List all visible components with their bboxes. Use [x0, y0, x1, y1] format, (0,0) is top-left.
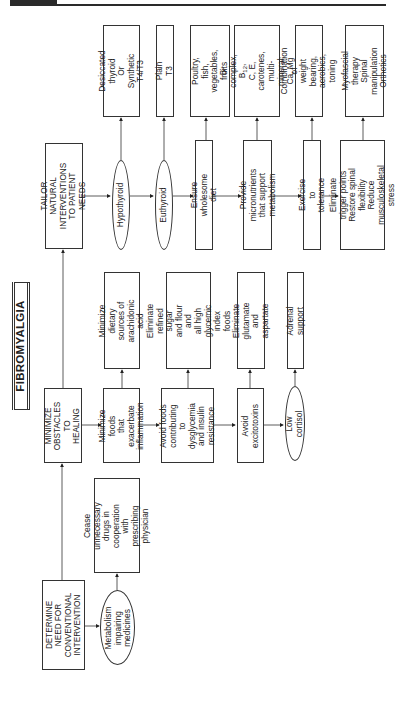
avoid-excitotoxins-box: Avoid excitotoxins	[237, 388, 264, 463]
determine-conventional-text: DETERMINE NEED FOR CONVENTIONAL INTERVEN…	[45, 593, 83, 658]
title-text: FIBROMYALGIA	[16, 300, 26, 391]
ensure-diet-text: Ensure wholesome diet	[190, 174, 219, 216]
euthyroid-text: Euthyroid	[159, 187, 169, 222]
metabolism-impairing-text: Metabolism impairing medicines	[103, 606, 132, 649]
metabolism-impairing-ellipse: Metabolism impairing medicines	[100, 590, 135, 665]
adrenal-support-box: Adrenal support	[287, 272, 304, 369]
myofascial-therapy-box: Myofascial therapy Spinal manipulation O…	[345, 25, 384, 117]
ensure-diet-box: Ensure wholesome diet	[195, 140, 213, 250]
provide-micronutrients-text: Provide micronutrients that support meta…	[238, 169, 276, 222]
determine-conventional-box: DETERMINE NEED FOR CONVENTIONAL INTERVEN…	[42, 580, 85, 670]
avoid-dysglycemia-foods-text: Avoid foods contributing to dysglycemia …	[159, 402, 217, 448]
plain-t3-box: Plain T3	[156, 25, 174, 117]
combination-exercise-box: Combination of weight bearing, aerobics,…	[295, 25, 323, 117]
eliminate-refined-sugar-text: Eliminate refined sugar and flour and al…	[145, 303, 231, 337]
minimize-arachidonic-box: Minimize dietary sources of arachidonic …	[104, 272, 140, 369]
exercise-box: Exercise to tolerance	[303, 140, 321, 250]
cease-drugs-box: Cease unnecessary drugs in cooperation w…	[94, 478, 140, 573]
combination-exercise-text: Combination of weight bearing, aerobics,…	[280, 47, 338, 94]
eliminate-trigger-points-box: Eliminate trigger points Restore spinal …	[340, 140, 385, 250]
fibromyalgia-title: FIBROMYALGIA	[12, 282, 30, 410]
desiccated-thyroid-text: Desiccated thyroid Or Synthetic T4/T3	[98, 50, 146, 91]
avoid-excitotoxins-text: Avoid excitotoxins	[241, 404, 260, 448]
minimize-obstacles-text: MINIMIZE OBSTACLES TO HEALING	[44, 401, 82, 450]
plain-t3-text: Plain T3	[155, 62, 174, 81]
exercise-text: Exercise to tolerance	[298, 178, 327, 212]
cease-drugs-text: Cease unnecessary drugs in cooperation w…	[83, 502, 150, 549]
desiccated-thyroid-box: Desiccated thyroid Or Synthetic T4/T3	[103, 25, 140, 117]
tailor-natural-box: TAILOR NATURAL INTERVENTIONS TO PATIENT …	[45, 143, 83, 249]
eliminate-glutamate-box: Eliminate glutamate and aspartate	[237, 272, 265, 369]
hypothyroid-ellipse: Hypothyroid	[112, 160, 130, 250]
b-complex-box: B-complex, B12, C, E, carotenes, multi-m…	[234, 25, 280, 117]
hypothyroid-text: Hypothyroid	[116, 183, 126, 228]
low-cortisol-ellipse: Low cortisol	[285, 386, 305, 461]
low-cortisol-text: Low cortisol	[285, 410, 304, 437]
eliminate-glutamate-text: Eliminate glutamate and aspartate	[232, 302, 270, 339]
adrenal-support-text: Adrenal support	[286, 306, 305, 335]
eliminate-trigger-points-text: Eliminate trigger points Restore spinal …	[329, 165, 396, 225]
tailor-natural-text: TAILOR NATURAL INTERVENTIONS TO PATIENT …	[40, 163, 87, 229]
minimize-inflammatory-foods-text: Minimize foods that exacerbate inflammat…	[98, 402, 146, 449]
euthyroid-ellipse: Euthyroid	[155, 160, 173, 250]
minimize-inflammatory-foods-box: Minimize foods that exacerbate inflammat…	[103, 388, 140, 463]
minimize-obstacles-box: MINIMIZE OBSTACLES TO HEALING	[44, 388, 82, 463]
provide-micronutrients-box: Provide micronutrients that support meta…	[243, 140, 272, 250]
myofascial-therapy-text: Myofascial therapy Spinal manipulation O…	[341, 47, 389, 95]
avoid-dysglycemia-foods-box: Avoid foods contributing to dysglycemia …	[161, 388, 214, 463]
eliminate-refined-sugar-box: Eliminate refined sugar and flour and al…	[166, 272, 211, 369]
minimize-arachidonic-text: Minimize dietary sources of arachidonic …	[98, 299, 146, 342]
